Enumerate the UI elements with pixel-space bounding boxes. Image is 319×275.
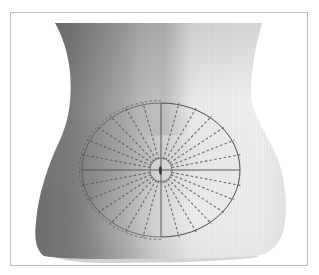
torso-illustration [0, 0, 319, 275]
torso-body [20, 15, 300, 265]
